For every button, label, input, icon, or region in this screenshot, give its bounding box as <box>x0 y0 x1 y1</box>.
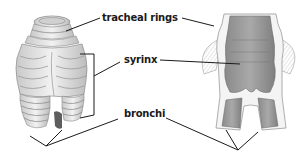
leader-bronchi-right-c <box>238 132 258 150</box>
leader-tracheal-rings-right <box>182 18 214 26</box>
leader-bronchi-left-c <box>46 130 62 146</box>
label-tracheal-rings: tracheal rings <box>102 12 178 23</box>
cross-section-syrinx-illustration <box>202 14 295 130</box>
leader-syrinx-left <box>94 62 120 76</box>
label-syrinx: syrinx <box>124 54 157 65</box>
leader-tracheal-rings-left <box>66 18 100 31</box>
syrinx-diagram: tracheal rings syrinx bronchi <box>0 0 301 161</box>
leader-bronchi-left-b <box>30 136 46 146</box>
external-syrinx-illustration <box>16 16 87 129</box>
diagram-artwork <box>0 0 301 161</box>
label-bronchi: bronchi <box>124 108 165 119</box>
